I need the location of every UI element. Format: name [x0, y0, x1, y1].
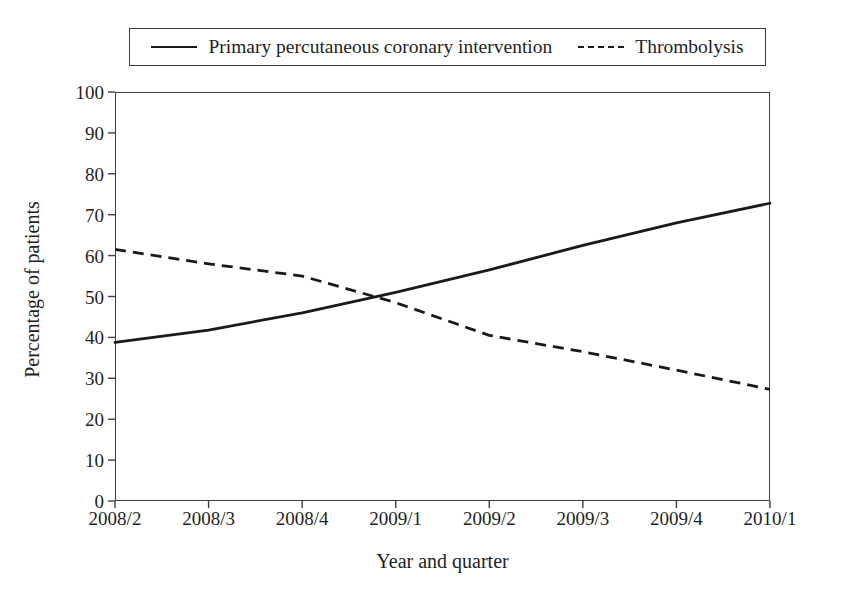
y-axis-tick-labels: 0102030405060708090100 [58, 92, 104, 501]
chart-figure: Primary percutaneous coronary interventi… [0, 0, 842, 608]
y-tick-label: 100 [58, 83, 104, 102]
y-axis-ticks [108, 92, 115, 501]
y-tick-label: 80 [58, 165, 104, 184]
chart-legend: Primary percutaneous coronary interventi… [129, 28, 766, 66]
x-axis-ticks [115, 501, 770, 508]
y-tick-label: 70 [58, 206, 104, 225]
x-axis-title: Year and quarter [115, 550, 770, 573]
y-tick-label: 50 [58, 288, 104, 307]
legend-swatch-solid-line-icon [151, 46, 197, 48]
y-tick-label: 30 [58, 369, 104, 388]
y-tick-label: 40 [58, 328, 104, 347]
y-tick-label: 90 [58, 124, 104, 143]
y-axis-title: Percentage of patients [21, 195, 44, 385]
y-tick-label: 10 [58, 451, 104, 470]
y-tick-label: 60 [58, 247, 104, 266]
x-axis-tick-labels: 2008/22008/32008/42009/12009/22009/32009… [115, 509, 770, 535]
legend-swatch-dashed-line-icon [578, 46, 624, 48]
data-line-thrombolysis [115, 249, 770, 389]
y-tick-label: 20 [58, 410, 104, 429]
legend-label-thrombolysis: Thrombolysis [635, 37, 743, 57]
legend-label-pci: Primary percutaneous coronary interventi… [208, 37, 552, 57]
x-tick-label: 2010/1 [715, 509, 825, 528]
legend-entry-pci: Primary percutaneous coronary interventi… [151, 37, 552, 57]
legend-entry-thrombolysis: Thrombolysis [578, 37, 743, 57]
plot-canvas [115, 92, 770, 501]
data-line-pci [115, 203, 770, 342]
